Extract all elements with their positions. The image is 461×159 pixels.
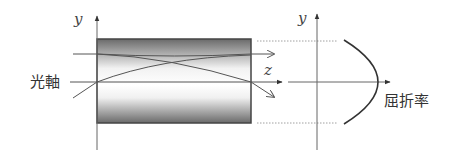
grin-lens-diagram: y 光軸 z y 屈折率: [0, 0, 461, 159]
z-axis-label: z: [263, 61, 272, 79]
optical-axis-label: 光軸: [30, 73, 60, 91]
grin-lens-body: [97, 39, 251, 123]
left-y-axis-label: y: [73, 10, 83, 28]
refractive-index-label: 屈折率: [384, 92, 429, 110]
right-y-axis-label: y: [297, 9, 307, 27]
